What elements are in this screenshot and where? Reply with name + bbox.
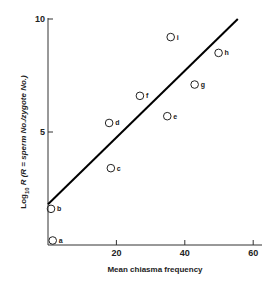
y-tick-label: 5 [40,127,45,137]
svg-text:e: e [173,113,177,120]
scatter-chart: 204060510 abcdefghi Mean chiasma frequen… [0,0,273,287]
x-axis-title: Mean chiasma frequency [107,265,203,274]
data-points: abcdefghi [47,33,229,244]
svg-text:i: i [177,34,179,41]
y-axis-title: Log10R (R = sperm No./zygote No.) [19,75,30,209]
data-point-c: c [107,164,121,172]
data-point-g: g [191,81,205,89]
regression-line [48,19,238,204]
data-point-h: h [215,49,229,57]
data-point-i: i [167,33,179,41]
data-point-e: e [163,112,177,120]
y-tick-label: 10 [35,14,45,24]
x-tick-label: 60 [248,248,258,258]
svg-text:f: f [146,92,149,99]
data-point-b: b [47,205,61,213]
data-point-d: d [105,119,119,127]
svg-text:c: c [117,165,121,172]
svg-text:d: d [115,119,119,126]
svg-text:h: h [225,49,229,56]
x-tick-label: 40 [180,248,190,258]
svg-text:g: g [201,81,205,89]
svg-text:b: b [57,205,61,212]
data-point-f: f [136,92,149,100]
x-tick-label: 20 [111,248,121,258]
data-point-a: a [49,237,63,245]
svg-text:a: a [59,237,63,244]
